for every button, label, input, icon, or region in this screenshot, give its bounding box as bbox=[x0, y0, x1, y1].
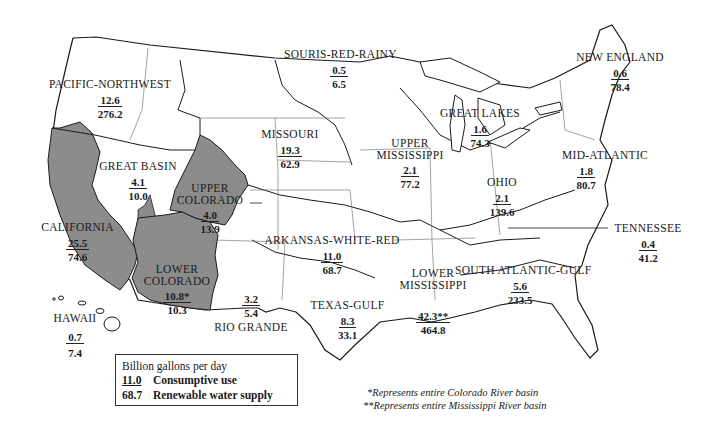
consumptive-use-value: 0.5 bbox=[330, 64, 348, 77]
legend-row-supply: 68.7 Renewable water supply bbox=[122, 388, 291, 403]
region-new-england: NEW ENGLAND 0.6 78.4 bbox=[565, 52, 675, 93]
renewable-supply-value: 74.6 bbox=[35, 252, 120, 263]
renewable-supply-value: 233.5 bbox=[455, 295, 585, 306]
consumptive-use-value: 2.1 bbox=[493, 192, 511, 205]
footnotes: *Represents entire Colorado River basin … bbox=[363, 386, 547, 412]
renewable-supply-value: 7.4 bbox=[45, 348, 105, 359]
region-name: RIO GRANDE bbox=[206, 322, 296, 334]
region-name-line1: UPPER bbox=[370, 138, 450, 150]
consumptive-use-value: 1.6 bbox=[471, 123, 489, 136]
map-legend: Billion gallons per day 11.0 Consumptive… bbox=[115, 354, 298, 406]
oahu-island bbox=[78, 301, 86, 305]
consumptive-use-value: 0.6 bbox=[611, 67, 629, 80]
region-tennessee: TENNESSEE 0.4 41.2 bbox=[608, 223, 688, 264]
region-rio-grande: 3.2 5.4 RIO GRANDE bbox=[206, 290, 296, 334]
region-name: OHIO bbox=[472, 177, 532, 189]
region-name: TEXAS-GULF bbox=[305, 300, 390, 312]
region-name: PACIFIC-NORTHWEST bbox=[40, 79, 180, 91]
renewable-supply-value: 77.2 bbox=[370, 179, 450, 190]
region-name: ARKANSAS-WHITE-RED bbox=[257, 235, 407, 247]
region-name-line1: UPPER bbox=[170, 183, 250, 195]
region-hawaii: HAWAII 0.7 7.4 bbox=[45, 313, 105, 359]
consumptive-use-value: 25.5 bbox=[66, 237, 89, 250]
consumptive-use-value: 8.3 bbox=[339, 315, 357, 328]
renewable-supply-value: 464.8 bbox=[388, 325, 478, 336]
footnote-colorado: *Represents entire Colorado River basin bbox=[363, 386, 547, 399]
region-souris-red-rainy: SOURIS-RED-RAINY 0.5 6.5 bbox=[284, 49, 394, 90]
consumptive-use-value: 3.2 bbox=[242, 293, 260, 306]
region-pacific-northwest: PACIFIC-NORTHWEST 12.6 276.2 bbox=[40, 79, 180, 120]
consumptive-use-value: 19.3 bbox=[278, 144, 301, 157]
renewable-supply-value: 139.6 bbox=[472, 207, 532, 218]
footnote-mississippi: **Represents entire Mississippi River ba… bbox=[363, 399, 547, 412]
renewable-supply-value: 33.1 bbox=[305, 330, 390, 341]
region-name: MID-ATLANTIC bbox=[555, 150, 655, 162]
region-missouri: MISSOURI 19.3 62.9 bbox=[250, 129, 330, 170]
consumptive-use-value: 0.7 bbox=[66, 331, 84, 344]
consumptive-use-value: 2.1 bbox=[401, 164, 419, 177]
region-name: GREAT LAKES bbox=[435, 108, 525, 120]
region-name-line1: LOWER bbox=[135, 264, 219, 276]
consumptive-use-value: 4.1 bbox=[129, 176, 147, 189]
hawaii-island bbox=[104, 317, 120, 331]
renewable-supply-value: 5.4 bbox=[206, 308, 296, 319]
region-ohio: OHIO 2.1 139.6 bbox=[472, 177, 532, 218]
niihau-island bbox=[53, 298, 55, 300]
region-texas-gulf: TEXAS-GULF 8.3 33.1 bbox=[305, 300, 390, 341]
consumptive-use-value: 10.8* bbox=[163, 290, 192, 303]
consumptive-use-value: 12.6 bbox=[98, 94, 121, 107]
renewable-supply-value: 80.7 bbox=[517, 180, 655, 191]
renewable-supply-value: 276.2 bbox=[40, 109, 180, 120]
consumptive-use-value: 11.0 bbox=[321, 250, 344, 263]
region-name: SOURIS-RED-RAINY bbox=[284, 49, 394, 61]
renewable-supply-value: 41.2 bbox=[608, 253, 688, 264]
legend-supply-label: Renewable water supply bbox=[153, 389, 273, 401]
region-arkansas-white-red: ARKANSAS-WHITE-RED 11.0 68.7 bbox=[257, 235, 407, 276]
legend-supply-example: 68.7 bbox=[122, 388, 150, 403]
legend-consumptive-label: Consumptive use bbox=[153, 374, 237, 386]
legend-row-consumptive: 11.0 Consumptive use bbox=[122, 373, 291, 388]
legend-title: Billion gallons per day bbox=[122, 359, 291, 373]
region-california: CALIFORNIA 25.5 74.6 bbox=[35, 222, 120, 263]
kauai-island bbox=[59, 296, 64, 300]
consumptive-use-value: 0.4 bbox=[639, 238, 657, 251]
region-name: MISSOURI bbox=[250, 129, 330, 141]
region-name: TENNESSEE bbox=[608, 223, 688, 235]
region-mid-atlantic: MID-ATLANTIC 1.8 80.7 bbox=[555, 150, 655, 191]
region-name: GREAT BASIN bbox=[92, 161, 184, 173]
consumptive-use-value: 5.6 bbox=[511, 280, 529, 293]
renewable-supply-value: 62.9 bbox=[250, 159, 330, 170]
renewable-supply-value: 6.5 bbox=[284, 79, 394, 90]
region-south-atlantic-gulf: SOUTH ATLANTIC-GULF 5.6 233.5 bbox=[455, 265, 585, 306]
region-name-line2: COLORADO bbox=[170, 195, 250, 207]
region-name-line2: COLORADO bbox=[135, 276, 219, 288]
region-upper-colorado: UPPER COLORADO 4.0 13.9 bbox=[170, 183, 250, 235]
region-name: HAWAII bbox=[45, 313, 105, 325]
consumptive-use-value: 1.8 bbox=[577, 165, 595, 178]
consumptive-use-value: 42.3** bbox=[416, 310, 450, 323]
region-name: NEW ENGLAND bbox=[565, 52, 675, 64]
legend-consumptive-example: 11.0 bbox=[122, 373, 150, 388]
renewable-supply-value: 68.7 bbox=[257, 265, 407, 276]
region-name: CALIFORNIA bbox=[35, 222, 120, 234]
renewable-supply-value: 13.9 bbox=[170, 224, 250, 235]
region-name-line2: MISSISSIPPI bbox=[370, 150, 450, 162]
consumptive-use-value: 4.0 bbox=[201, 209, 219, 222]
renewable-supply-value: 78.4 bbox=[565, 82, 675, 93]
region-upper-mississippi: UPPER MISSISSIPPI 2.1 77.2 bbox=[370, 138, 450, 190]
region-name: SOUTH ATLANTIC-GULF bbox=[455, 265, 585, 277]
